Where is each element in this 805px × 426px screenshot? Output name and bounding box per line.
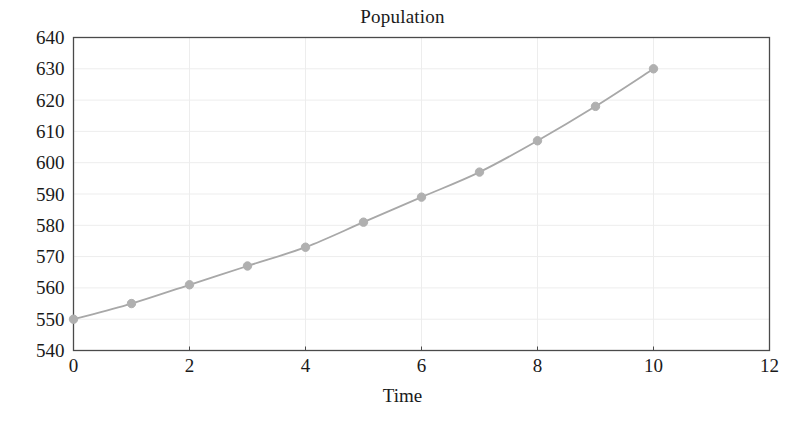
x-tick-label: 8 bbox=[533, 355, 543, 376]
data-point-marker bbox=[69, 315, 77, 323]
data-point-marker bbox=[359, 218, 367, 226]
x-tick-label: 10 bbox=[644, 355, 663, 376]
x-tick-label: 2 bbox=[185, 355, 195, 376]
data-point-marker bbox=[301, 243, 309, 251]
data-point-marker bbox=[127, 299, 135, 307]
x-axis-tick-labels: 024681012 bbox=[69, 355, 779, 376]
y-tick-label: 610 bbox=[36, 121, 65, 142]
x-tick-label: 6 bbox=[417, 355, 427, 376]
y-tick-label: 640 bbox=[36, 27, 65, 48]
y-axis-tick-labels: 540550560570580590600610620630640 bbox=[36, 27, 65, 361]
x-tick-label: 12 bbox=[760, 355, 779, 376]
y-tick-label: 580 bbox=[36, 215, 65, 236]
y-tick-label: 630 bbox=[36, 58, 65, 79]
data-point-marker bbox=[533, 137, 541, 145]
y-tick-label: 570 bbox=[36, 246, 65, 267]
plot-canvas: 540550560570580590600610620630640 024681… bbox=[0, 0, 805, 426]
x-tick-label: 0 bbox=[69, 355, 79, 376]
x-tick-label: 4 bbox=[301, 355, 311, 376]
data-point-marker bbox=[649, 65, 657, 73]
y-tick-label: 550 bbox=[36, 309, 65, 330]
y-tick-label: 540 bbox=[36, 340, 65, 361]
data-point-marker bbox=[591, 102, 599, 110]
y-tick-label: 560 bbox=[36, 277, 65, 298]
y-tick-label: 620 bbox=[36, 90, 65, 111]
y-tick-label: 590 bbox=[36, 184, 65, 205]
data-point-marker bbox=[185, 281, 193, 289]
data-point-marker bbox=[475, 168, 483, 176]
population-line-chart: Population 54055056057058059060061062063… bbox=[0, 0, 805, 426]
data-point-marker bbox=[243, 262, 251, 270]
y-tick-label: 600 bbox=[36, 152, 65, 173]
x-axis-title: Time bbox=[0, 385, 805, 407]
data-point-marker bbox=[417, 193, 425, 201]
